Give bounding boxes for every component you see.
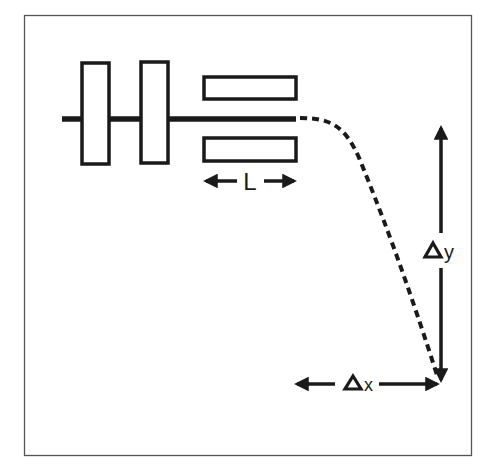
lens-plate-1: [82, 63, 109, 164]
deflector-upper: [204, 77, 296, 99]
delta-y-triangle-icon: [425, 243, 441, 257]
diagram-canvas: L y x: [0, 0, 490, 470]
dy-label-var: y: [444, 241, 454, 263]
length-label: L: [243, 168, 256, 195]
deflector-lower: [204, 138, 296, 161]
lens-plate-2: [141, 62, 168, 163]
dx-label-var: x: [364, 375, 373, 395]
trajectory: [300, 118, 437, 375]
delta-x-triangle-icon: [345, 376, 361, 389]
